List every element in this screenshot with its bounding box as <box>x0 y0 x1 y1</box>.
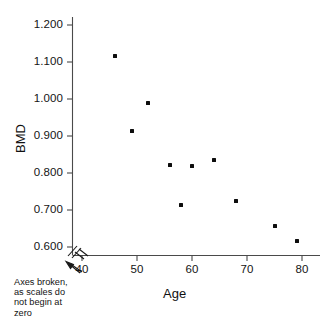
x-axis-title: Age <box>163 286 186 301</box>
data-point <box>113 54 117 58</box>
data-point <box>234 199 238 203</box>
data-point <box>168 163 172 167</box>
caption-line-1: Axes broken, <box>14 277 80 287</box>
y-tick-marks <box>67 25 73 247</box>
y-tick-label-1100: 1.100 <box>20 55 63 67</box>
y-tick-label-0700: 0.700 <box>20 203 63 215</box>
x-tick-label-70: 70 <box>240 263 254 275</box>
data-point <box>273 224 277 228</box>
data-point <box>190 164 194 168</box>
x-tick-label-40: 40 <box>75 263 89 275</box>
y-axis-title: BMD <box>13 109 28 169</box>
x-tick-label-60: 60 <box>185 263 199 275</box>
axis-lines <box>73 17 321 256</box>
y-tick-label-1200: 1.200 <box>20 18 63 30</box>
y-tick-label-0600: 0.600 <box>20 240 63 252</box>
data-point <box>130 129 134 133</box>
y-tick-label-1000: 1.000 <box>20 92 63 104</box>
data-point <box>146 101 150 105</box>
x-tick-marks <box>82 256 302 262</box>
data-point <box>179 203 183 207</box>
caption-line-3: not begin at <box>14 297 80 307</box>
axis-break-marks <box>68 246 88 259</box>
data-point <box>212 158 216 162</box>
x-tick-label-80: 80 <box>295 263 309 275</box>
scatter-plot-figure: 1.200 1.100 1.000 0.900 0.800 0.700 0.60… <box>0 0 328 321</box>
data-point <box>295 239 299 243</box>
x-tick-label-50: 50 <box>130 263 144 275</box>
axes-layer <box>0 0 328 321</box>
caption-line-4: zero <box>14 308 80 318</box>
caption-line-2: as scales do <box>14 287 80 297</box>
axis-break-caption: Axes broken, as scales do not begin at z… <box>14 277 80 318</box>
